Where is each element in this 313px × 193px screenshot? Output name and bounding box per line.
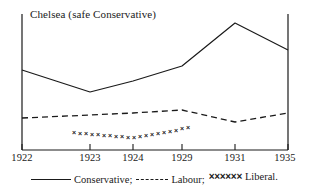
svg-text:×: × xyxy=(84,130,88,137)
svg-text:×: × xyxy=(162,129,166,136)
svg-text:×: × xyxy=(180,125,184,132)
svg-text:×: × xyxy=(168,128,172,135)
chart-plot-area: × × × × × × × × × × × × × × × × × × × × xyxy=(0,0,313,193)
x-tick-label-1924: 1924 xyxy=(122,152,143,163)
solid-line-icon xyxy=(31,179,71,180)
legend-label-labour: Labour; xyxy=(171,174,208,185)
chart-legend: Conservative; Labour; ×××××× Liberal. xyxy=(0,171,313,185)
svg-text:×: × xyxy=(144,132,148,139)
chart-figure: × × × × × × × × × × × × × × × × × × × × … xyxy=(0,0,313,193)
svg-text:×: × xyxy=(156,130,160,137)
svg-text:×: × xyxy=(120,133,124,140)
svg-text:×: × xyxy=(186,124,190,131)
svg-text:×: × xyxy=(150,131,154,138)
svg-text:×: × xyxy=(78,130,82,137)
x-tick-label-1935: 1935 xyxy=(274,152,295,163)
x-tick-label-1931: 1931 xyxy=(224,152,245,163)
axis-ticks xyxy=(22,144,288,150)
svg-text:×: × xyxy=(90,131,94,138)
legend-item-conservative: Conservative; xyxy=(31,174,136,185)
svg-text:×: × xyxy=(72,129,76,136)
x-tick-label-1929: 1929 xyxy=(171,152,192,163)
x-tick-label-1922: 1922 xyxy=(11,152,32,163)
series-marks-liberal: × × × × × × × × × × × × × × × × × × × × xyxy=(72,124,190,141)
svg-text:×: × xyxy=(132,134,136,141)
legend-label-conservative: Conservative; xyxy=(74,174,136,185)
svg-text:×: × xyxy=(138,133,142,140)
series-line-labour xyxy=(22,110,288,122)
series-line-conservative xyxy=(22,23,288,92)
svg-text:×: × xyxy=(96,131,100,138)
cross-marks-icon: ×××××× xyxy=(209,171,242,182)
legend-item-labour: Labour; xyxy=(136,174,208,185)
svg-text:×: × xyxy=(126,134,130,141)
chart-title: Chelsea (safe Conservative) xyxy=(30,8,156,20)
legend-label-liberal: Liberal. xyxy=(245,171,282,182)
svg-text:×: × xyxy=(174,127,178,134)
svg-text:×: × xyxy=(102,132,106,139)
dashed-line-icon xyxy=(136,179,168,180)
svg-text:×: × xyxy=(108,132,112,139)
x-tick-label-1923: 1923 xyxy=(79,152,100,163)
legend-item-liberal: ×××××× Liberal. xyxy=(209,171,282,182)
svg-text:×: × xyxy=(114,133,118,140)
